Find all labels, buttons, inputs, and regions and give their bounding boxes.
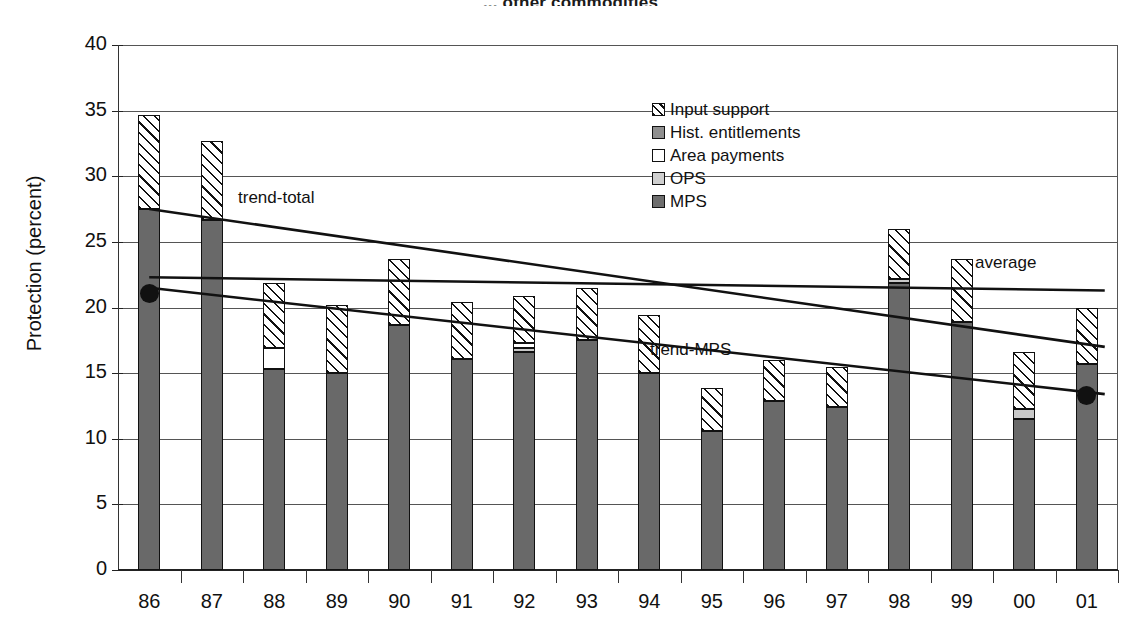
- x-axis-tick-label: 94: [624, 590, 674, 613]
- x-axis-tick-label: 90: [374, 590, 424, 613]
- x-axis-tick-label: 98: [874, 590, 924, 613]
- chart-root: ... other commodities Protection (percen…: [0, 0, 1141, 633]
- x-axis-tick-mark: [181, 570, 182, 583]
- chart-title: ... other commodities: [0, 0, 1141, 6]
- x-axis-tick-label: 97: [812, 590, 862, 613]
- x-axis-tick-label: 86: [124, 590, 174, 613]
- legend-item-mps[interactable]: MPS: [652, 191, 852, 212]
- y-axis-tick-label: 30: [47, 163, 107, 186]
- x-axis-tick-mark: [306, 570, 307, 583]
- x-axis-tick-label: 95: [687, 590, 737, 613]
- legend-item-input[interactable]: Input support: [652, 99, 852, 120]
- chart-legend: Input supportHist. entitlementsArea paym…: [652, 99, 852, 214]
- legend-item-ops[interactable]: OPS: [652, 168, 852, 189]
- y-axis-tick-label: 15: [47, 360, 107, 383]
- y-axis-tick-label: 35: [47, 98, 107, 121]
- legend-swatch-hist-icon: [652, 126, 665, 139]
- annotation-trend-mps: trend-MPS: [650, 340, 731, 360]
- y-axis-label: Protection (percent): [23, 54, 46, 474]
- y-axis-tick-label: 25: [47, 229, 107, 252]
- legend-label: Hist. entitlements: [670, 124, 800, 141]
- x-axis-tick-mark: [618, 570, 619, 583]
- x-axis-tick-label: 93: [562, 590, 612, 613]
- annotation-average: average: [975, 253, 1036, 273]
- x-axis-tick-mark: [431, 570, 432, 583]
- x-axis-tick-label: 01: [1062, 590, 1112, 613]
- legend-label: MPS: [670, 193, 707, 210]
- x-axis-tick-label: 99: [937, 590, 987, 613]
- y-axis-tick-label: 10: [47, 426, 107, 449]
- y-axis-tick-label: 40: [47, 32, 107, 55]
- x-axis-tick-mark: [806, 570, 807, 583]
- x-axis-tick-mark: [368, 570, 369, 583]
- legend-swatch-ops-icon: [652, 172, 665, 185]
- x-axis-tick-mark: [743, 570, 744, 583]
- annotation-trend-total: trend-total: [238, 188, 315, 208]
- x-axis-tick-mark: [993, 570, 994, 583]
- legend-item-area[interactable]: Area payments: [652, 145, 852, 166]
- y-axis-tick-label: 5: [47, 491, 107, 514]
- legend-swatch-area-icon: [652, 149, 665, 162]
- legend-label: Area payments: [670, 147, 784, 164]
- legend-swatch-mps-icon: [652, 195, 665, 208]
- y-axis-tick-label: 0: [47, 557, 107, 580]
- x-axis-tick-mark: [1056, 570, 1057, 583]
- x-axis-tick-mark: [931, 570, 932, 583]
- legend-item-hist[interactable]: Hist. entitlements: [652, 122, 852, 143]
- x-axis-tick-label: 96: [749, 590, 799, 613]
- trendline-trend-MPS: [149, 288, 1105, 394]
- data-marker: [140, 284, 159, 303]
- x-axis-tick-label: 89: [312, 590, 362, 613]
- x-axis-tick-mark: [243, 570, 244, 583]
- x-axis-tick-mark: [493, 570, 494, 583]
- x-axis-tick-mark: [1118, 570, 1119, 583]
- legend-label: Input support: [670, 101, 769, 118]
- x-axis-tick-label: 88: [249, 590, 299, 613]
- y-axis-tick-label: 20: [47, 295, 107, 318]
- x-axis-tick-mark: [868, 570, 869, 583]
- trendline-trend-total: [149, 209, 1105, 347]
- x-axis-tick-label: 87: [187, 590, 237, 613]
- x-axis-tick-label: 91: [437, 590, 487, 613]
- x-axis-tick-mark: [556, 570, 557, 583]
- legend-swatch-input-icon: [652, 103, 665, 116]
- x-axis-tick-label: 00: [999, 590, 1049, 613]
- trendlines-overlay: [118, 45, 1118, 570]
- x-axis-tick-mark: [681, 570, 682, 583]
- x-axis-tick-label: 92: [499, 590, 549, 613]
- legend-label: OPS: [670, 170, 706, 187]
- plot-area: 86878889909192939495969798990001: [118, 45, 1118, 570]
